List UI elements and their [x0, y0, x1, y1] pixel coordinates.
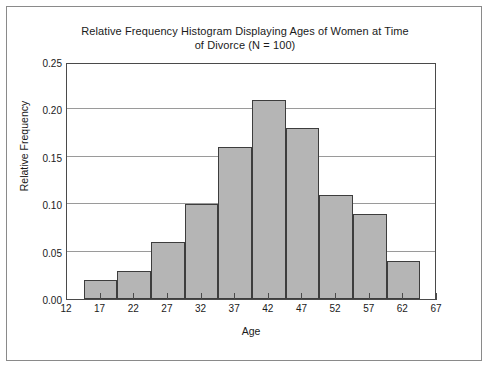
x-tick-label: 52: [318, 303, 352, 314]
x-tick-label: 32: [184, 303, 218, 314]
y-tick-label: 0.20: [28, 105, 62, 116]
x-tick-label: 47: [284, 303, 318, 314]
x-tick-label: 42: [251, 303, 285, 314]
x-tick-mark: [301, 293, 302, 300]
y-tick-label: 0.25: [28, 58, 62, 69]
x-tick-mark: [66, 293, 67, 300]
x-tick-label: 12: [49, 303, 83, 314]
chart-title-line-2: of Divorce (N = 100): [40, 38, 450, 52]
y-tick-label: 0.10: [28, 200, 62, 211]
x-tick-label: 27: [150, 303, 184, 314]
x-axis-title: Age: [66, 325, 436, 337]
histogram-bar: [353, 214, 387, 299]
x-tick-label: 67: [419, 303, 453, 314]
x-tick-label: 17: [83, 303, 117, 314]
histogram-bar: [151, 242, 185, 299]
histogram-figure: Relative Frequency Histogram Displaying …: [0, 0, 489, 368]
histogram-bar: [252, 100, 286, 299]
plot-area: [66, 63, 436, 300]
histogram-bar: [185, 204, 219, 299]
histogram-bar: [286, 128, 320, 299]
histogram-bar: [117, 271, 151, 299]
histogram-bar: [218, 147, 252, 299]
x-tick-mark: [167, 293, 168, 300]
x-tick-mark: [402, 293, 403, 300]
chart-title-line-1: Relative Frequency Histogram Displaying …: [40, 24, 450, 38]
x-tick-mark: [133, 293, 134, 300]
x-tick-label: 62: [385, 303, 419, 314]
histogram-bar: [319, 195, 353, 299]
x-tick-mark: [335, 293, 336, 300]
y-tick-label: 0.05: [28, 247, 62, 258]
bars-layer: [67, 64, 435, 299]
histogram-bar: [84, 280, 118, 299]
y-tick-label: 0.15: [28, 152, 62, 163]
chart-title: Relative Frequency Histogram Displaying …: [40, 24, 450, 52]
x-tick-mark: [436, 293, 437, 300]
x-tick-mark: [268, 293, 269, 300]
x-axis-tick-labels: 121722273237424752576267: [66, 303, 436, 319]
x-tick-mark: [201, 293, 202, 300]
y-axis-tick-labels: 0.000.050.100.150.200.25: [24, 63, 62, 300]
x-tick-mark: [100, 293, 101, 300]
x-tick-mark: [369, 293, 370, 300]
x-tick-mark: [234, 293, 235, 300]
x-tick-label: 57: [352, 303, 386, 314]
x-tick-label: 22: [116, 303, 150, 314]
x-tick-label: 37: [217, 303, 251, 314]
